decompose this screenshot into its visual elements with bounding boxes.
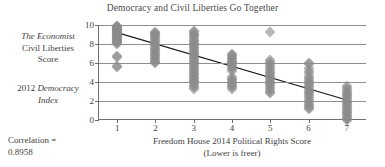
y-tick-mark: [95, 63, 99, 64]
y-tick-label: 2: [78, 96, 94, 106]
plot-area: 02468101234567: [98, 25, 366, 120]
gridline: [98, 44, 366, 45]
x-tick-label: 6: [306, 123, 311, 133]
y-axis-label-line2: Civil Liberties: [22, 43, 74, 53]
y-axis-label2-line1: Democracy: [37, 83, 78, 93]
x-tick-label: 2: [153, 123, 158, 133]
y-axis-label-line1: The Economist: [21, 31, 75, 41]
y-tick-label: 10: [78, 20, 94, 30]
y-axis-label-line3: Score: [38, 54, 59, 64]
correlation-value: 0.8958: [8, 147, 33, 157]
y-tick-mark: [95, 101, 99, 102]
chart-title: Democracy and Civil Liberties Go Togethe…: [0, 3, 385, 13]
y-tick-mark: [95, 25, 99, 26]
y-tick-label: 0: [78, 115, 94, 125]
y-axis-label2-line2: Index: [38, 95, 58, 105]
x-tick-label: 3: [191, 123, 196, 133]
x-axis-sublabel: (Lower is freer): [98, 148, 366, 160]
gridline: [98, 101, 366, 102]
correlation-label: Correlation =: [8, 135, 56, 145]
x-tick-label: 1: [115, 123, 120, 133]
y-axis-label2-prefix: 2012: [17, 83, 37, 93]
x-tick-label: 4: [230, 123, 235, 133]
y-tick-label: 6: [78, 58, 94, 68]
x-tick-label: 5: [268, 123, 273, 133]
y-tick-label: 8: [78, 39, 94, 49]
y-tick-mark: [95, 44, 99, 45]
chart-figure: Democracy and Civil Liberties Go Togethe…: [0, 0, 385, 167]
y-tick-label: 4: [78, 77, 94, 87]
x-axis-label: Freedom House 2014 Political Rights Scor…: [98, 136, 366, 148]
gridline: [98, 25, 366, 26]
y-tick-mark: [95, 120, 99, 121]
y-tick-mark: [95, 82, 99, 83]
